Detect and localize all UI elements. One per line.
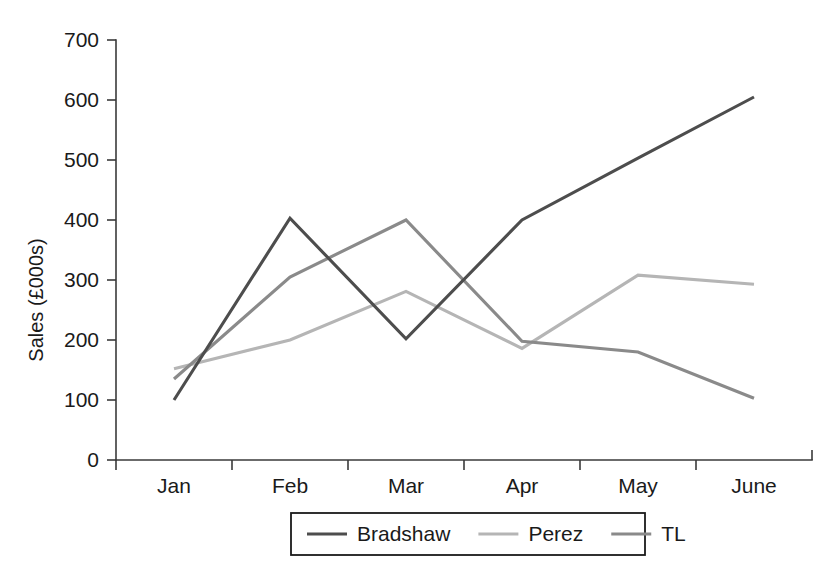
y-tick-label: 300 (64, 268, 99, 291)
series-line-bradshaw (174, 97, 754, 400)
y-tick-label: 200 (64, 328, 99, 351)
series-line-perez (174, 275, 754, 369)
x-tick-label: Jan (157, 474, 191, 497)
x-tick-label-group: JanFebMarAprMayJune (157, 474, 777, 497)
y-tick-label: 0 (87, 448, 99, 471)
x-tick-label: Feb (272, 474, 308, 497)
x-tick-label: Mar (388, 474, 424, 497)
x-tick-label: May (618, 474, 658, 497)
y-tick-label: 400 (64, 208, 99, 231)
x-tick-label: June (731, 474, 777, 497)
y-tick-label: 100 (64, 388, 99, 411)
legend-label-bradshaw[interactable]: Bradshaw (357, 522, 451, 545)
series-group (174, 97, 754, 400)
y-tick-label-group: 0100200300400500600700 (64, 28, 99, 471)
y-tick-group (107, 40, 116, 460)
x-tick-label: Apr (506, 474, 539, 497)
series-line-tl (174, 220, 754, 398)
legend-label-tl[interactable]: TL (661, 522, 686, 545)
line-chart: Sales (£000s) 0100200300400500600700 Jan… (0, 0, 837, 587)
y-tick-label: 600 (64, 88, 99, 111)
y-tick-label: 700 (64, 28, 99, 51)
chart-canvas: Sales (£000s) 0100200300400500600700 Jan… (0, 0, 837, 587)
legend-label-perez[interactable]: Perez (528, 522, 583, 545)
y-axis-title: Sales (£000s) (25, 238, 47, 361)
y-tick-label: 500 (64, 148, 99, 171)
chart-legend[interactable]: BradshawPerezTL (291, 513, 686, 555)
